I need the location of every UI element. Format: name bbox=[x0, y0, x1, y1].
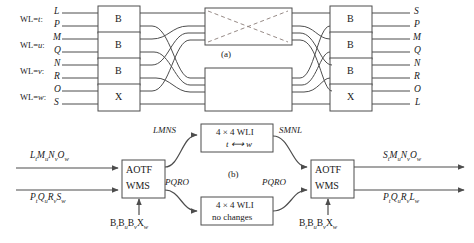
output-port-N: N bbox=[414, 59, 420, 69]
panel-a-caption: (a) bbox=[221, 50, 231, 59]
right-box-1-label: B bbox=[347, 14, 354, 24]
right-box-2-label: B bbox=[347, 40, 354, 50]
right-aotf-wms-line2: WMS bbox=[315, 181, 339, 191]
input-port-P: P bbox=[54, 20, 60, 30]
signal-label-pqro-right: PQRO bbox=[262, 178, 286, 187]
left-box-4-label: X bbox=[115, 92, 122, 102]
output-port-L: L bbox=[415, 98, 420, 108]
panel-b-input-2-label: PtQuRvSw bbox=[30, 193, 66, 204]
output-port-R: R bbox=[414, 72, 420, 82]
output-port-Q: Q bbox=[414, 46, 421, 56]
panel-b-caption: (b) bbox=[228, 170, 239, 179]
wli-top-line2: t ⟷ w bbox=[226, 140, 252, 149]
left-box-3-label: B bbox=[115, 66, 122, 76]
left-aotf-wms-line1: AOTF bbox=[126, 165, 152, 175]
left-control-label: BtBuBvXw bbox=[110, 219, 148, 230]
input-port-L: L bbox=[54, 7, 59, 17]
signal-label-smnl: SMNL bbox=[279, 126, 302, 135]
wli-top-line1: 4 × 4 WLI bbox=[216, 128, 254, 137]
signal-label-lmns: LMNS bbox=[153, 126, 176, 135]
right-box-3-label: B bbox=[347, 66, 354, 76]
panel-b-output-2-label: PtQuRvLw bbox=[383, 193, 419, 204]
input-port-S: S bbox=[54, 98, 59, 108]
wli-bottom-line1: 4 × 4 WLI bbox=[216, 201, 254, 210]
input-port-M: M bbox=[53, 33, 61, 43]
wavelength-label-u: WL=u: bbox=[20, 41, 45, 50]
right-control-label: BtBuBvXw bbox=[299, 219, 337, 230]
signal-label-pqro-left: PQRO bbox=[165, 178, 189, 187]
panel-b-output-1-label: StMuNvOw bbox=[383, 151, 421, 162]
left-box-1-label: B bbox=[115, 14, 122, 24]
output-port-O: O bbox=[414, 85, 421, 95]
input-port-Q: Q bbox=[54, 46, 61, 56]
output-port-P: P bbox=[414, 20, 420, 30]
input-port-R: R bbox=[54, 72, 60, 82]
wavelength-label-t: WL=t: bbox=[20, 15, 43, 24]
input-port-O: O bbox=[54, 85, 61, 95]
output-port-M: M bbox=[413, 33, 421, 43]
right-aotf-wms-line1: AOTF bbox=[315, 165, 341, 175]
right-box-4-label: X bbox=[347, 92, 354, 102]
wavelength-label-w: WL=w: bbox=[20, 93, 46, 102]
wavelength-label-v: WL=v: bbox=[20, 67, 44, 76]
input-port-N: N bbox=[54, 59, 60, 69]
left-box-2-label: B bbox=[115, 40, 122, 50]
wli-bottom-line2: no changes bbox=[212, 213, 252, 222]
output-port-S: S bbox=[414, 7, 419, 17]
left-aotf-wms-line2: WMS bbox=[126, 181, 150, 191]
panel-b-input-1-label: LtMuNvOw bbox=[30, 151, 69, 162]
